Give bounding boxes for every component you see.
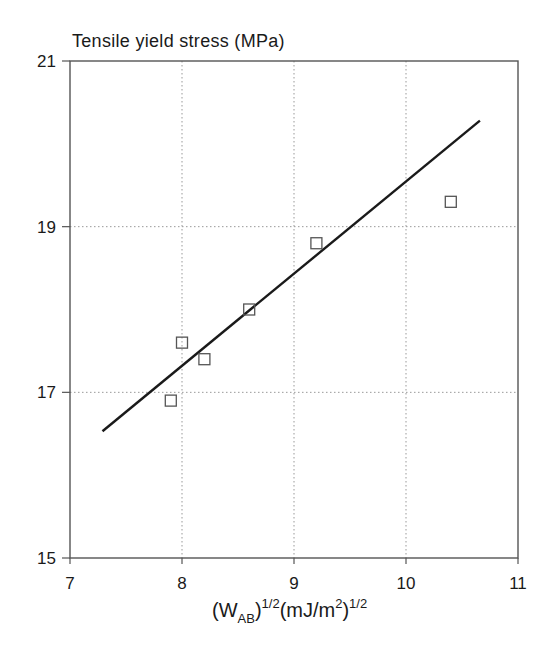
fit-line — [102, 121, 479, 432]
x-label-superscript: 1/2 — [262, 596, 280, 611]
regression-line — [102, 121, 479, 432]
x-tick-label: 7 — [65, 574, 74, 593]
square-marker — [199, 354, 210, 365]
scatter-plot: 151719217891011 — [0, 0, 545, 650]
y-tick-label: 15 — [37, 549, 56, 568]
x-label-part: (W — [212, 599, 238, 621]
x-tick-label: 8 — [177, 574, 186, 593]
grid-lines — [70, 61, 518, 558]
y-tick-label: 19 — [37, 218, 56, 237]
x-label-superscript: 1/2 — [349, 596, 367, 611]
x-label-part: ) — [255, 599, 262, 621]
y-tick-label: 17 — [37, 383, 56, 402]
x-label-part: (mJ/m — [280, 599, 336, 621]
square-marker — [165, 395, 176, 406]
square-marker — [445, 196, 456, 207]
x-tick-label: 10 — [397, 574, 416, 593]
data-points — [165, 196, 456, 406]
x-tick-label: 9 — [289, 574, 298, 593]
square-marker — [311, 238, 322, 249]
axis-ticks: 151719217891011 — [37, 52, 527, 593]
x-axis-label: (WAB)1/2(mJ/m2)1/2 — [212, 596, 367, 626]
x-label-subscript: AB — [238, 611, 255, 626]
y-tick-label: 21 — [37, 52, 56, 71]
x-tick-label: 11 — [509, 574, 527, 593]
